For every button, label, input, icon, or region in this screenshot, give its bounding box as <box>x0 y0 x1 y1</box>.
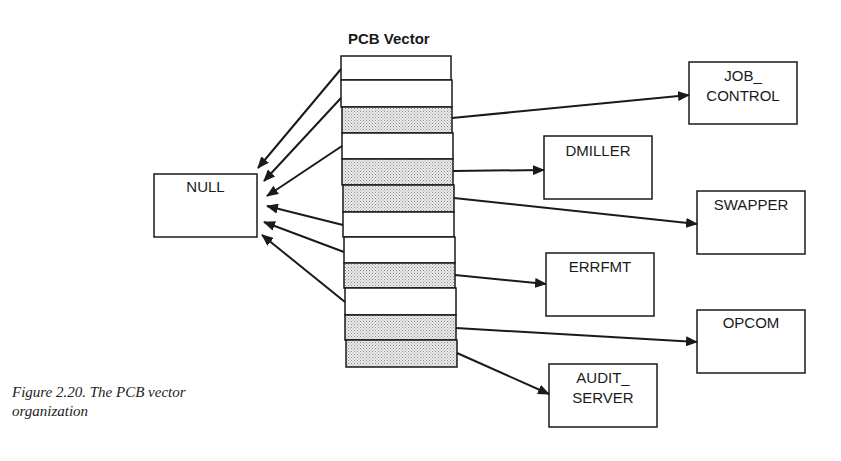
arrow-slot2-null <box>264 98 341 181</box>
audit-server-label-line2: SERVER <box>549 388 657 408</box>
job-control-label: JOB_ CONTROL <box>689 66 797 106</box>
arrow-slot10-null <box>262 235 345 302</box>
opcom-label: OPCOM <box>697 313 805 333</box>
vector-slot-2 <box>341 80 452 107</box>
job-control-label-line2: CONTROL <box>689 86 797 106</box>
vector-slot-12 <box>346 340 457 367</box>
figure-caption: Figure 2.20. The PCB vector organization <box>12 383 212 421</box>
null-arrows <box>258 69 345 302</box>
pcb-vector <box>341 56 457 367</box>
swapper-label: SWAPPER <box>697 195 805 215</box>
dmiller-label: DMILLER <box>544 141 652 161</box>
vector-slot-1 <box>341 56 451 80</box>
arrow-slot9-errfmt <box>455 275 546 284</box>
vector-slot-10 <box>345 288 456 315</box>
vector-title: PCB Vector <box>348 30 430 47</box>
arrow-slot3-job-control <box>452 95 689 118</box>
vector-slot-8 <box>344 237 455 263</box>
vector-slot-4 <box>342 133 453 159</box>
vector-slot-3 <box>342 107 452 133</box>
arrow-slot7-null <box>267 206 343 225</box>
arrow-slot12-audit-server <box>457 353 549 394</box>
arrow-slot4-null <box>267 146 342 196</box>
arrow-slot6-swapper <box>454 198 697 224</box>
vector-slot-7 <box>343 212 454 237</box>
vector-slot-5 <box>342 159 453 185</box>
arrow-slot5-dmiller <box>453 170 544 171</box>
errfmt-label: ERRFMT <box>546 257 654 277</box>
audit-server-label: AUDIT_ SERVER <box>549 368 657 408</box>
job-control-label-line1: JOB_ <box>689 66 797 86</box>
figure-caption-line2: organization <box>12 402 212 421</box>
arrow-slot1-null <box>258 69 341 168</box>
arrow-slot11-opcom <box>456 328 697 342</box>
vector-slot-9 <box>344 263 455 288</box>
audit-server-label-line1: AUDIT_ <box>549 368 657 388</box>
vector-slot-6 <box>343 185 454 212</box>
null-label: NULL <box>154 177 257 197</box>
vector-slot-11 <box>345 315 456 340</box>
figure-caption-line1: Figure 2.20. The PCB vector <box>12 383 212 402</box>
